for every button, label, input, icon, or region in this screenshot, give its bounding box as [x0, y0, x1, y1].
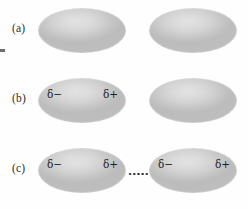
panel-c-left-delta-plus-label: δ+ — [103, 158, 118, 170]
panel-b-label: (b) — [12, 92, 26, 104]
panel-c-right-molecule — [149, 148, 237, 193]
panel-c-right-delta-plus-label: δ+ — [215, 158, 230, 170]
panel-c-label: (c) — [12, 162, 25, 174]
dipole-interaction-figure: (a) (b) (c) δ− δ+ δ− δ+ δ− δ+ — [0, 0, 248, 209]
panel-c: (c) — [0, 140, 248, 209]
panel-c-right-delta-minus-label: δ− — [158, 158, 173, 170]
panel-a: (a) — [0, 0, 248, 69]
panel-b: (b) — [0, 70, 248, 139]
dotted-attraction-line — [128, 173, 148, 175]
panel-b-left-molecule — [38, 78, 126, 123]
panel-a-left-molecule — [38, 8, 126, 53]
panel-a-label: (a) — [12, 22, 25, 34]
panel-c-left-delta-minus-label: δ− — [47, 158, 62, 170]
panel-c-left-molecule — [38, 148, 126, 193]
panel-b-right-molecule — [149, 78, 237, 123]
panel-b-left-delta-minus-label: δ− — [47, 88, 62, 100]
panel-b-left-delta-plus-label: δ+ — [103, 88, 118, 100]
panel-a-right-molecule — [149, 8, 237, 53]
